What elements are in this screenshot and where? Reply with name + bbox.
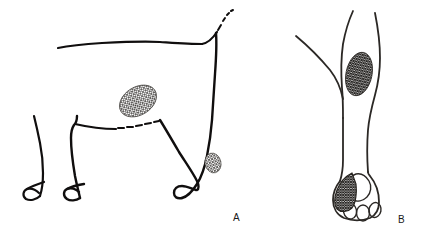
- panel-b-label: B: [398, 214, 405, 225]
- figure-canvas: A: [0, 0, 422, 240]
- illustration-svg: A: [0, 0, 422, 240]
- panel-a-label: A: [233, 212, 240, 223]
